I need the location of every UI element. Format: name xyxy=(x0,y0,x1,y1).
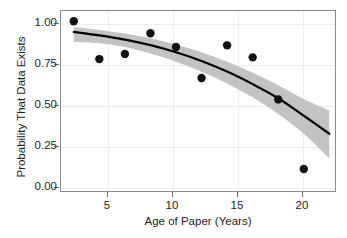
xtick-label-5: 5 xyxy=(87,200,127,212)
xtick-mark-15 xyxy=(237,192,238,197)
xtick-mark-20 xyxy=(302,192,303,197)
data-point xyxy=(274,95,282,103)
data-point xyxy=(146,29,154,37)
data-point xyxy=(197,74,205,82)
data-point xyxy=(300,165,308,173)
xtick-mark-10 xyxy=(172,192,173,197)
data-point xyxy=(121,50,129,58)
x-axis-title: Age of Paper (Years) xyxy=(60,215,336,227)
data-layer xyxy=(61,11,335,191)
xtick-label-20: 20 xyxy=(282,200,322,212)
xtick-mark-5 xyxy=(107,192,108,197)
chart-canvas xyxy=(61,11,335,191)
chart-figure: 1.00 0.75 0.50 0.25 0.00 5 10 15 20 Age … xyxy=(0,0,347,238)
y-axis-title: Probability That Data Exists xyxy=(15,16,27,198)
xtick-label-15: 15 xyxy=(217,200,257,212)
plot-area xyxy=(60,10,336,192)
data-point xyxy=(223,41,231,49)
data-point xyxy=(70,17,78,25)
data-point xyxy=(172,43,180,51)
data-point xyxy=(95,55,103,63)
data-point xyxy=(248,53,256,61)
confidence-band-area xyxy=(74,27,330,158)
xtick-label-10: 10 xyxy=(152,200,192,212)
